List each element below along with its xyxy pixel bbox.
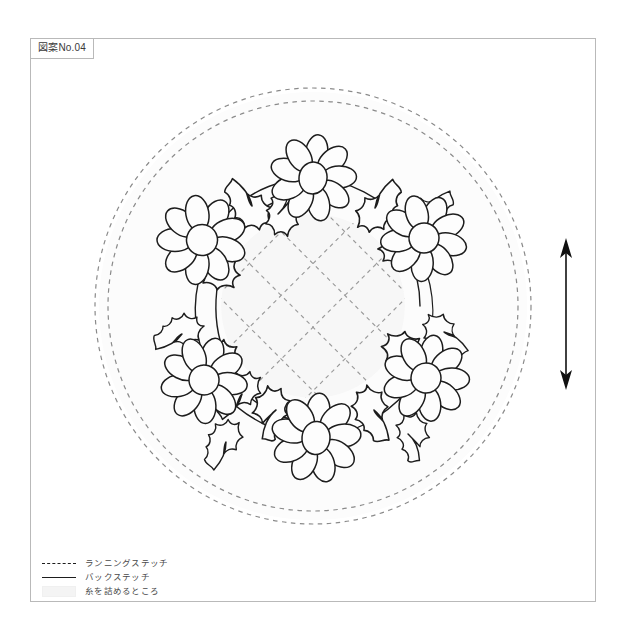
pattern-number-label: 図案No.04 [30, 38, 94, 59]
legend-label-running-stitch: ランニングステッチ [85, 557, 169, 569]
embroidery-design [30, 38, 596, 602]
legend-item-running-stitch: ランニングステッチ [42, 556, 292, 570]
back-stitch-key-icon [42, 571, 76, 583]
legend-item-fill-area: 糸を詰めるところ [42, 584, 292, 598]
grain-direction-arrow [548, 236, 584, 392]
stitch-legend: ランニングステッチ バックステッチ 糸を詰めるところ [42, 556, 292, 598]
legend-label-back-stitch: バックステッチ [85, 571, 150, 583]
running-stitch-key-icon [42, 557, 76, 569]
legend-label-fill-area: 糸を詰めるところ [85, 585, 159, 597]
fill-area-key-swatch [42, 586, 76, 597]
legend-item-back-stitch: バックステッチ [42, 570, 292, 584]
